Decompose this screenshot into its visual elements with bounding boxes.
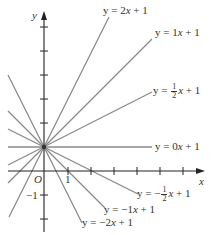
label-line-slope-neg1: y = −1x + 1 [104,204,155,215]
line-slope-neg-half [8,129,138,194]
x-tick-label-1: 1 [65,174,71,185]
label-line-slope-2: y = 2x + 1 [103,5,148,16]
label-line-slope-neg-half: y = −12x + 1 [137,186,191,203]
y-axis-arrow-icon [41,11,47,20]
line-slope-neg2 [8,75,82,223]
y-tick-label-neg1: −1 [26,190,38,201]
line-slope-half [8,92,152,165]
label-line-slope-neg2: y = −2x + 1 [82,217,133,228]
fraction: 12 [161,186,167,203]
label-line-slope-0: y = 0x + 1 [155,141,200,152]
origin-label: O [34,174,42,185]
y-axis-label: y [32,10,37,21]
label-line-slope-half: y = 12x + 1 [153,83,200,100]
label-line-slope-1: y = 1x + 1 [155,27,200,38]
line-slope-neg1 [8,111,105,208]
fraction: 12 [171,83,177,100]
common-point [42,145,46,149]
x-axis-arrow-icon [196,168,205,174]
line-slope-1 [8,39,152,183]
line-slope-2 [9,17,109,217]
x-axis-label: x [199,176,204,187]
